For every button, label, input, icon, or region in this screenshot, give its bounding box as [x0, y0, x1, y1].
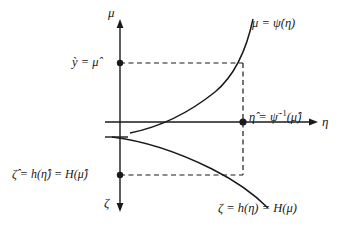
vertical-axis: [117, 19, 124, 212]
guide-lines-group: [120, 63, 243, 175]
eta-axis-arrowhead: [309, 119, 318, 126]
eta-hat-label-lhs: η̂ = ψ̇: [249, 110, 278, 124]
zeta-curve-label: ζ = h(η) = H(μ): [218, 202, 297, 215]
eta-hat-label-rhs: (μ̂): [287, 110, 302, 124]
point-zeta-hat: [117, 172, 123, 178]
eta-axis-label: η: [322, 115, 328, 128]
y-bar-mu-hat-label: ỳ = μ̂: [72, 56, 99, 69]
mu-curve-label: μ = ψ̇(η): [252, 17, 295, 30]
zeta-axis-arrowhead: [117, 203, 124, 212]
mu-axis-label: μ: [108, 6, 115, 19]
zeta-curve: [112, 137, 268, 208]
eta-hat-label: η̂ = ψ̇−1(μ̂): [249, 109, 301, 124]
diagram-canvas: μ ζ η μ = ψ̇(η) ζ = h(η) = H(μ) ỳ = μ̂ η…: [0, 0, 347, 230]
point-y-bar-mu-hat: [117, 60, 123, 66]
zeta-hat-label: ζ̂ = h(η̂) = H(μ̂): [12, 168, 88, 180]
mu-axis-arrowhead: [117, 19, 124, 28]
zeta-axis-label: ζ: [104, 196, 109, 209]
point-eta-hat: [239, 118, 246, 125]
eta-hat-label-exponent: −1: [278, 108, 287, 118]
mu-curve: [130, 19, 253, 133]
